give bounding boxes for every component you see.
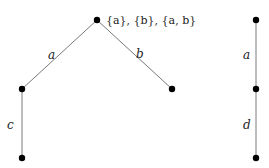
edge-a-tree1	[22, 20, 97, 89]
node-middle-tree2	[253, 86, 259, 92]
node-left-bottom-tree1	[19, 155, 25, 161]
diagram-canvas: {a}, {b}, {a, b} a b c a d	[0, 0, 269, 168]
edge-label-c-tree1: c	[7, 118, 14, 132]
node-top-tree2	[253, 17, 259, 23]
node-bottom-tree2	[253, 155, 259, 161]
node-root-tree1	[94, 17, 100, 23]
edge-b-tree1	[97, 20, 172, 89]
node-right-tree1	[169, 86, 175, 92]
edge-label-a-tree2: a	[243, 48, 250, 62]
edge-label-a-tree1: a	[48, 48, 55, 62]
node-left-tree1	[19, 86, 25, 92]
edge-label-b-tree1: b	[136, 47, 144, 61]
root-annotation: {a}, {b}, {a, b}	[106, 14, 196, 27]
edge-label-d-tree2: d	[243, 118, 251, 132]
